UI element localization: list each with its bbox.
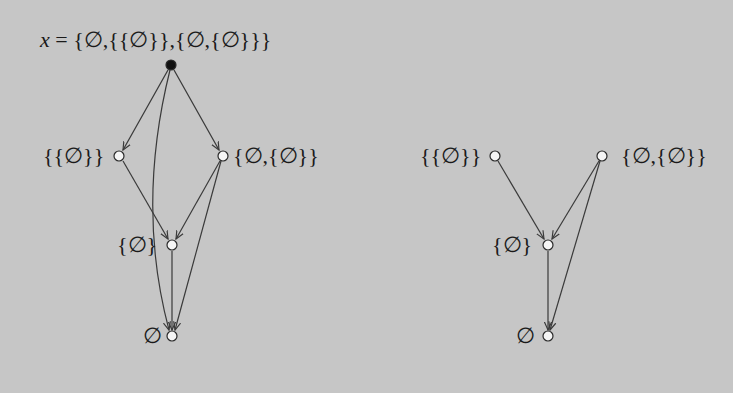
edge-a-to-c [123,161,168,239]
left-label-a: {{∅}} [43,145,104,167]
edge-b-to-c [552,161,599,239]
edge-x-to-d [153,70,170,330]
right-label-d: ∅ [516,325,535,347]
node-d [543,331,553,341]
node-d [167,331,177,341]
node-x-root [166,60,176,70]
edge-b-to-c [176,161,220,239]
right-label-c: {∅} [492,234,532,256]
left-label-b: {∅,{∅}} [233,145,319,167]
node-a [114,151,124,161]
node-c [167,240,177,250]
node-c [543,240,553,250]
left-graph-edges [123,70,221,330]
node-b [597,151,607,161]
left-label-d: ∅ [143,325,162,347]
left-graph-nodes [114,60,228,341]
edge-a-to-c [498,161,544,239]
node-a [490,151,500,161]
title-set-value: {∅,{{∅}},{∅,{∅}}} [73,27,271,52]
edge-b-to-d [550,161,600,330]
right-label-b: {∅,{∅}} [621,145,707,167]
diagram-canvas: x = {∅,{{∅}},{∅,{∅}}} {{∅}} {∅,{∅}} {∅} … [0,0,733,393]
graph-svg [0,0,733,393]
title-equals: = [50,27,73,52]
edge-b-to-d [175,161,221,330]
left-graph-title: x = {∅,{{∅}},{∅,{∅}}} [40,29,271,51]
node-b [218,151,228,161]
right-label-a: {{∅}} [420,145,481,167]
title-variable: x [40,27,50,52]
left-label-c: {∅} [117,234,157,256]
edge-x-to-b [174,70,219,150]
